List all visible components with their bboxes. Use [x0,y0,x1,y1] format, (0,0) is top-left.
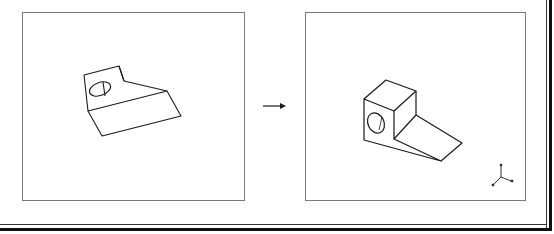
frame-right-rule [546,0,547,228]
frame-right-rule-thick [549,0,552,231]
transform-arrow-icon [263,101,287,111]
panel-before [22,12,245,201]
frame-bottom-rule-thick [0,228,552,231]
panel-after [305,12,526,201]
frame-bottom-rule [0,224,547,225]
part-isometric-orientation [306,13,525,200]
part-original-orientation [23,13,244,200]
axis-triad-icon [492,164,513,186]
